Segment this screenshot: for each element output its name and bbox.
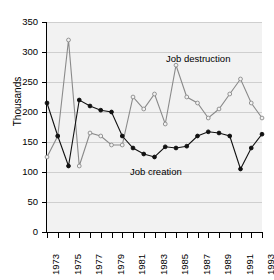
data-point <box>163 122 167 126</box>
data-point <box>45 155 49 159</box>
data-point <box>163 145 167 149</box>
data-point <box>56 134 60 138</box>
data-point <box>110 143 114 147</box>
data-point <box>185 144 189 148</box>
data-point <box>77 98 81 102</box>
data-point <box>67 38 71 42</box>
data-point <box>174 146 178 150</box>
data-point <box>249 146 253 150</box>
data-point <box>196 101 200 105</box>
data-point <box>131 95 135 99</box>
data-point <box>260 132 264 136</box>
data-point <box>228 92 232 96</box>
data-point <box>99 134 103 138</box>
data-point <box>120 134 124 138</box>
data-point <box>88 104 92 108</box>
data-point <box>196 134 200 138</box>
data-point <box>239 77 243 81</box>
series-label-job-destruction: Job destruction <box>166 53 230 64</box>
data-point <box>217 107 221 111</box>
data-point <box>99 108 103 112</box>
data-point <box>185 95 189 99</box>
data-point <box>206 116 210 120</box>
data-point <box>110 110 114 114</box>
data-point <box>239 167 243 171</box>
data-point <box>249 101 253 105</box>
data-point <box>217 131 221 135</box>
data-point <box>142 107 146 111</box>
data-point <box>67 164 71 168</box>
data-point <box>153 92 157 96</box>
data-point <box>77 164 81 168</box>
data-point <box>260 116 264 120</box>
series-layer <box>0 0 274 280</box>
chart-figure: Thousands 350300250200150100500 19731975… <box>0 0 274 280</box>
data-point <box>206 130 210 134</box>
data-point <box>88 131 92 135</box>
data-point <box>131 146 135 150</box>
data-point <box>142 152 146 156</box>
series-label-job-creation: Job creation <box>130 166 182 177</box>
data-point <box>228 134 232 138</box>
data-point <box>45 101 49 105</box>
data-point <box>153 155 157 159</box>
data-point <box>120 143 124 147</box>
